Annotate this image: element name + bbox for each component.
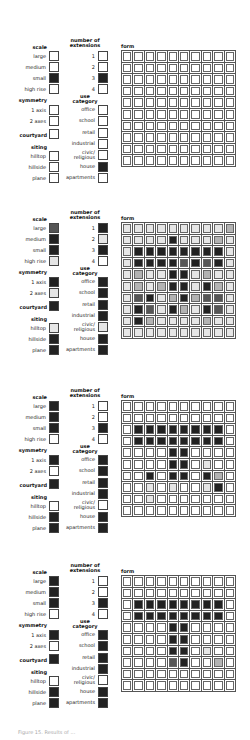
form-cell-r7-c0[interactable] <box>122 132 132 143</box>
form-cell-r3-c5[interactable] <box>179 258 189 269</box>
scale-box-large[interactable] <box>49 51 59 61</box>
form-cell-r6-c7[interactable] <box>202 471 212 482</box>
form-cell-r4-c9[interactable] <box>225 447 235 458</box>
form-cell-r6-c0[interactable] <box>122 293 132 304</box>
form-cell-r2-c7[interactable] <box>202 424 212 435</box>
form-cell-r6-c1[interactable] <box>133 646 143 657</box>
form-cell-r5-c8[interactable] <box>213 459 223 470</box>
form-cell-r7-c5[interactable] <box>179 304 189 315</box>
form-cell-r3-c6[interactable] <box>190 436 200 447</box>
form-cell-r6-c2[interactable] <box>145 471 155 482</box>
form-cell-r9-c8[interactable] <box>213 505 223 516</box>
form-cell-r3-c0[interactable] <box>122 86 132 97</box>
form-cell-r3-c8[interactable] <box>213 436 223 447</box>
form-cell-r5-c6[interactable] <box>190 281 200 292</box>
siting-box-plane[interactable] <box>49 698 59 708</box>
form-cell-r1-c1[interactable] <box>133 63 143 74</box>
form-cell-r1-c5[interactable] <box>179 63 189 74</box>
form-cell-r2-c0[interactable] <box>122 246 132 257</box>
form-cell-r7-c3[interactable] <box>156 132 166 143</box>
form-cell-r7-c7[interactable] <box>202 304 212 315</box>
form-cell-r4-c1[interactable] <box>133 269 143 280</box>
form-cell-r0-c8[interactable] <box>213 223 223 234</box>
scale-box-small[interactable] <box>49 73 59 83</box>
form-cell-r2-c6[interactable] <box>190 74 200 85</box>
form-cell-r8-c8[interactable] <box>213 669 223 680</box>
form-cell-r0-c3[interactable] <box>156 576 166 587</box>
form-cell-r9-c5[interactable] <box>179 680 189 691</box>
form-cell-r4-c4[interactable] <box>168 622 178 633</box>
form-cell-r5-c3[interactable] <box>156 109 166 120</box>
form-cell-r5-c0[interactable] <box>122 634 132 645</box>
form-cell-r0-c7[interactable] <box>202 576 212 587</box>
extensions-box-1[interactable] <box>98 223 108 233</box>
form-cell-r0-c7[interactable] <box>202 223 212 234</box>
form-cell-r8-c1[interactable] <box>133 316 143 327</box>
form-cell-r0-c1[interactable] <box>133 401 143 412</box>
form-cell-r6-c2[interactable] <box>145 121 155 132</box>
form-cell-r4-c7[interactable] <box>202 269 212 280</box>
form-cell-r5-c8[interactable] <box>213 281 223 292</box>
form-cell-r7-c0[interactable] <box>122 304 132 315</box>
form-cell-r0-c4[interactable] <box>168 401 178 412</box>
use-box-house[interactable] <box>98 334 108 344</box>
form-cell-r7-c0[interactable] <box>122 482 132 493</box>
extensions-box-1[interactable] <box>98 401 108 411</box>
form-cell-r0-c6[interactable] <box>190 576 200 587</box>
form-cell-r5-c2[interactable] <box>145 459 155 470</box>
form-cell-r3-c9[interactable] <box>225 86 235 97</box>
form-cell-r2-c4[interactable] <box>168 74 178 85</box>
form-cell-r4-c9[interactable] <box>225 97 235 108</box>
form-cell-r5-c1[interactable] <box>133 281 143 292</box>
form-cell-r8-c6[interactable] <box>190 494 200 505</box>
form-cell-r4-c3[interactable] <box>156 269 166 280</box>
form-cell-r8-c8[interactable] <box>213 316 223 327</box>
form-cell-r2-c4[interactable] <box>168 599 178 610</box>
form-cell-r5-c6[interactable] <box>190 109 200 120</box>
form-cell-r3-c3[interactable] <box>156 86 166 97</box>
form-cell-r8-c3[interactable] <box>156 669 166 680</box>
symmetry-box-2-axes[interactable] <box>49 288 59 298</box>
form-cell-r3-c0[interactable] <box>122 258 132 269</box>
form-cell-r0-c2[interactable] <box>145 223 155 234</box>
form-cell-r7-c7[interactable] <box>202 482 212 493</box>
form-cell-r5-c9[interactable] <box>225 634 235 645</box>
form-cell-r8-c1[interactable] <box>133 144 143 155</box>
form-cell-r1-c6[interactable] <box>190 413 200 424</box>
form-cell-r1-c3[interactable] <box>156 235 166 246</box>
form-cell-r9-c1[interactable] <box>133 505 143 516</box>
form-cell-r6-c7[interactable] <box>202 293 212 304</box>
form-cell-r9-c9[interactable] <box>225 505 235 516</box>
form-cell-r8-c3[interactable] <box>156 494 166 505</box>
form-cell-r4-c3[interactable] <box>156 97 166 108</box>
form-cell-r7-c7[interactable] <box>202 132 212 143</box>
form-cell-r8-c7[interactable] <box>202 669 212 680</box>
siting-box-hillside[interactable] <box>49 162 59 172</box>
form-cell-r9-c7[interactable] <box>202 327 212 338</box>
form-cell-r1-c8[interactable] <box>213 413 223 424</box>
use-box-industrial[interactable] <box>98 311 108 321</box>
form-cell-r4-c2[interactable] <box>145 269 155 280</box>
form-cell-r8-c0[interactable] <box>122 494 132 505</box>
form-cell-r4-c0[interactable] <box>122 447 132 458</box>
form-cell-r3-c2[interactable] <box>145 436 155 447</box>
form-cell-r9-c3[interactable] <box>156 680 166 691</box>
form-cell-r8-c3[interactable] <box>156 316 166 327</box>
form-cell-r9-c7[interactable] <box>202 155 212 166</box>
form-cell-r1-c4[interactable] <box>168 235 178 246</box>
use-box-industrial[interactable] <box>98 139 108 149</box>
form-cell-r3-c3[interactable] <box>156 611 166 622</box>
form-cell-r7-c2[interactable] <box>145 132 155 143</box>
form-cell-r9-c4[interactable] <box>168 505 178 516</box>
form-cell-r6-c5[interactable] <box>179 293 189 304</box>
form-cell-r6-c1[interactable] <box>133 471 143 482</box>
form-cell-r6-c5[interactable] <box>179 646 189 657</box>
form-cell-r1-c9[interactable] <box>225 413 235 424</box>
form-cell-r9-c2[interactable] <box>145 505 155 516</box>
form-cell-r2-c4[interactable] <box>168 424 178 435</box>
form-cell-r3-c6[interactable] <box>190 611 200 622</box>
form-cell-r5-c3[interactable] <box>156 281 166 292</box>
courtyard-box[interactable] <box>49 479 59 489</box>
form-cell-r5-c0[interactable] <box>122 281 132 292</box>
form-cell-r4-c1[interactable] <box>133 97 143 108</box>
